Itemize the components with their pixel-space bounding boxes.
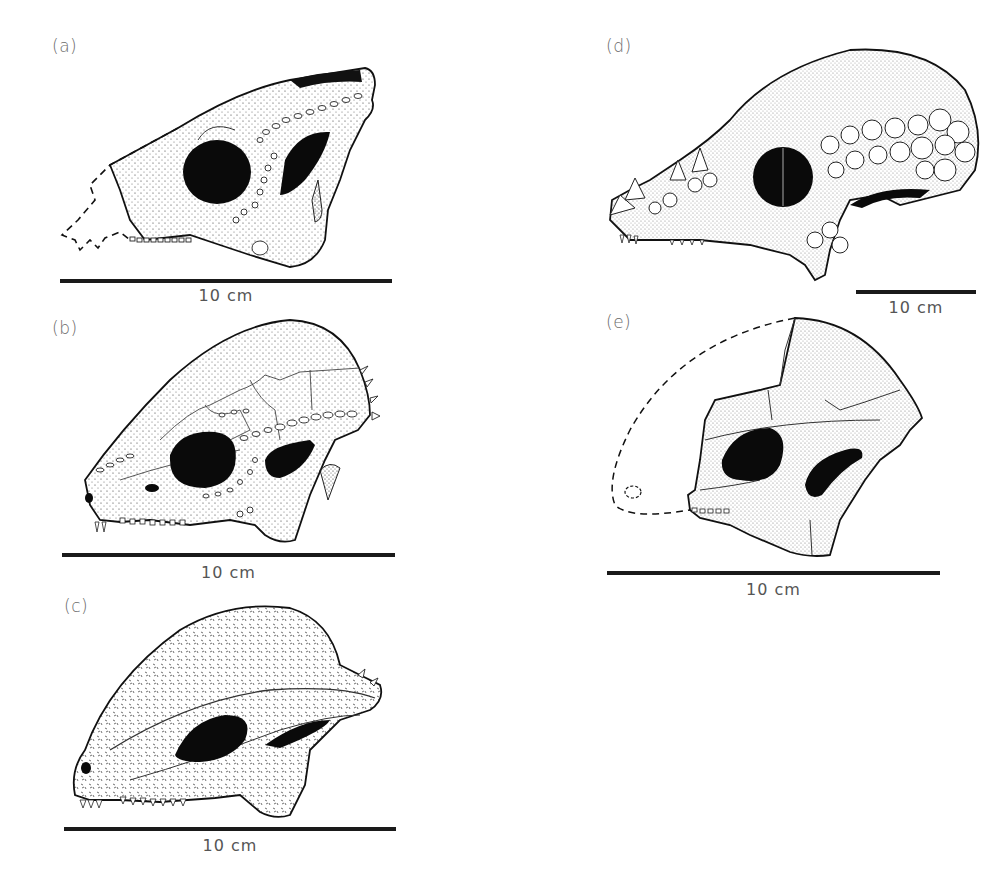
- scale-bar-b: [62, 553, 395, 557]
- skull-illustration-b: [40, 310, 400, 550]
- skull-illustration-e: [600, 310, 940, 560]
- panel-label-a: (a): [52, 36, 77, 56]
- scale-bar-e: [607, 571, 940, 575]
- skull-illustration-a: [50, 60, 390, 275]
- scale-bar-c: [64, 827, 396, 831]
- scale-bar-d: [856, 290, 976, 294]
- scale-label-a: 10 cm: [60, 286, 392, 305]
- skull-illustration-d: [600, 40, 990, 285]
- scale-label-c: 10 cm: [64, 836, 396, 855]
- scale-bar-a: [60, 279, 392, 283]
- scale-label-b: 10 cm: [62, 563, 395, 582]
- scale-label-e: 10 cm: [607, 580, 940, 599]
- skull-illustration-c: [40, 590, 410, 820]
